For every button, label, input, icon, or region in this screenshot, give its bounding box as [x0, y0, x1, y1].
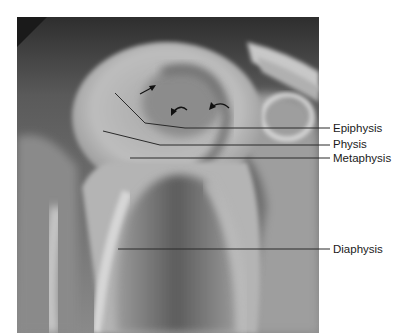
xray-image [17, 17, 319, 333]
label-metaphysis: Metaphysis [333, 153, 391, 165]
label-physis: Physis [333, 139, 367, 151]
label-epiphysis: Epiphysis [333, 123, 382, 135]
label-diaphysis: Diaphysis [333, 244, 383, 256]
